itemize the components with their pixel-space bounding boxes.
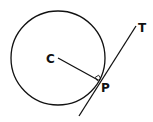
circle-tangent-diagram: C P T bbox=[0, 0, 153, 122]
radius-line-cp bbox=[58, 58, 98, 80]
tangent-line-pt bbox=[79, 26, 136, 116]
label-tangent-t: T bbox=[138, 21, 147, 35]
label-point-p: P bbox=[101, 81, 110, 95]
label-center-c: C bbox=[46, 52, 55, 66]
